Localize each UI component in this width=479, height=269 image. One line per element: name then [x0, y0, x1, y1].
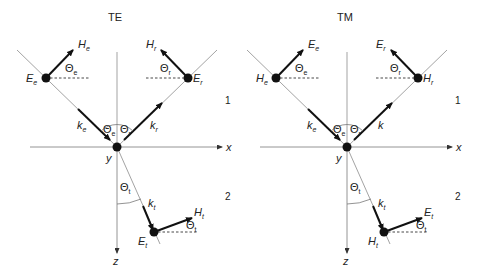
te-tm-diagram: TE Ee He Θe — [0, 0, 479, 269]
tm-theta-r-label: Θr — [350, 123, 362, 137]
te-title: TE — [108, 11, 122, 23]
tm-reflected-point-label: Hr — [423, 72, 434, 86]
te-medium-2-label: 2 — [225, 191, 231, 202]
te-axis-z-label: z — [112, 255, 119, 267]
tm-transmitted-angle-label: Θt — [416, 219, 427, 233]
te-axis-y-label: y — [105, 152, 113, 164]
te-transmitted-point-label: Et — [138, 235, 148, 249]
tm-origin-point — [343, 143, 352, 152]
tm-k-reflected-label: k — [378, 119, 384, 131]
tm-panel: TM He Ee Θe Hr Er Θr ke k Θe Θr y x — [247, 11, 462, 267]
te-transmitted-vec-label: Ht — [194, 206, 205, 220]
te-k-transmitted-arrow — [143, 206, 153, 230]
te-panel: TE Ee He Θe — [17, 11, 232, 267]
te-axis-x-label: x — [225, 141, 232, 153]
tm-reflected-angle-label: Θr — [390, 62, 402, 76]
te-reflected-angle-label: Θr — [160, 62, 172, 76]
te-reflected-vec-label: Hr — [146, 38, 157, 52]
tm-theta-t-label: Θt — [350, 181, 361, 195]
te-k-transmitted-label: kt — [148, 197, 157, 211]
tm-axis-x-label: x — [455, 141, 462, 153]
tm-medium-2-label: 2 — [455, 191, 461, 202]
tm-transmit-arc — [347, 199, 371, 204]
te-theta-t-label: Θt — [120, 181, 131, 195]
tm-reflected-vec-label: Er — [376, 38, 386, 52]
te-reflected-point-label: Er — [193, 72, 203, 86]
te-transmit-arc — [117, 199, 141, 204]
tm-incident-point-label: He — [256, 72, 268, 86]
te-incident-vec-label: He — [78, 38, 90, 52]
te-medium-1-label: 1 — [225, 95, 231, 106]
te-origin-point — [113, 143, 122, 152]
te-k-reflected-label: kr — [150, 119, 159, 133]
tm-k-incident-label: ke — [307, 119, 317, 133]
tm-axis-z-label: z — [342, 255, 349, 267]
tm-transmitted-point-label: Ht — [368, 235, 379, 249]
te-theta-r-label: Θr — [120, 123, 132, 137]
te-k-incident-label: ke — [77, 119, 87, 133]
tm-title: TM — [337, 11, 353, 23]
te-incident-angle-label: Θe — [65, 62, 78, 76]
tm-k-transmitted-arrow — [373, 206, 383, 230]
tm-k-transmitted-label: kt — [378, 197, 387, 211]
tm-axis-y-label: y — [335, 152, 343, 164]
tm-transmitted-vec-label: Et — [424, 206, 434, 220]
tm-incident-vec-label: Ee — [308, 38, 319, 52]
tm-incident-angle-label: Θe — [295, 62, 308, 76]
tm-medium-1-label: 1 — [455, 95, 461, 106]
te-transmitted-angle-label: Θt — [186, 219, 197, 233]
te-incident-point-label: Ee — [26, 72, 37, 86]
